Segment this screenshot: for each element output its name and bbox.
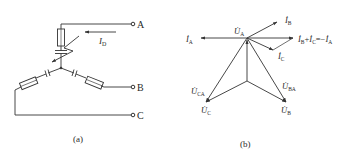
capacitor-c — [45, 70, 50, 78]
caption-b: (b) — [240, 139, 251, 149]
terminal-a-label: A — [137, 19, 145, 30]
phasor-uba — [247, 38, 286, 102]
wire-phase-a — [61, 24, 131, 38]
label-ib-plus-ic-eq-minus-ia: İB+İC=−İA — [297, 34, 332, 45]
terminal-a — [131, 22, 135, 26]
label-ia: İA — [185, 34, 193, 45]
phasor-diagram — [201, 22, 293, 102]
phasor-uca — [206, 38, 247, 102]
insulator-b — [85, 76, 103, 89]
terminal-c-label: C — [137, 110, 144, 121]
insulator-c — [19, 77, 37, 90]
wire-phase-b — [101, 86, 131, 87]
phasor-ub — [247, 81, 286, 102]
label-uca: U̇CA — [191, 86, 205, 97]
capacitor-b — [72, 70, 77, 78]
label-ic: İC — [277, 51, 285, 62]
label-ib: İB — [284, 15, 292, 26]
terminal-c — [131, 113, 135, 117]
label-ub: U̇B — [281, 105, 291, 116]
label-uba: U̇BA — [282, 81, 296, 92]
wire-phase-c — [15, 87, 131, 115]
phasor-ib — [247, 22, 277, 38]
label-uc: U̇C — [201, 105, 211, 116]
terminal-b — [131, 85, 135, 89]
breakdown-arrow — [52, 36, 79, 62]
label-ua: U̇A — [234, 26, 244, 37]
phasor-uc — [206, 81, 247, 102]
current-id-label: ID — [98, 36, 107, 47]
circuit-diagram — [15, 22, 135, 117]
diagram-canvas: A B C ID (a) İA U̇A İB İB+İC=−İA İC U̇CA… — [0, 0, 350, 158]
caption-a: (a) — [73, 134, 83, 144]
terminal-b-label: B — [137, 82, 144, 93]
